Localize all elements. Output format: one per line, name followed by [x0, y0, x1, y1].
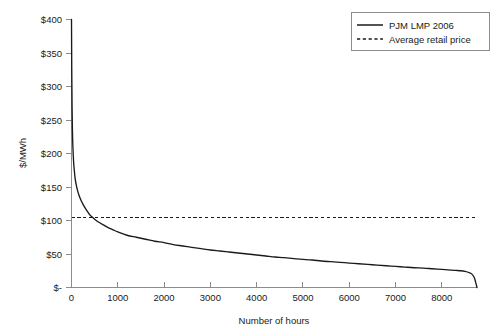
legend-box [352, 13, 490, 51]
y-tick-label-400: $400 [41, 14, 62, 25]
x-tick-label-2000: 2000 [154, 292, 175, 303]
legend-label-average-retail-price: Average retail price [389, 34, 471, 45]
x-tick-label-4000: 4000 [246, 292, 267, 303]
x-tick-label-5000: 5000 [292, 292, 313, 303]
y-tick-label-350: $350 [41, 48, 62, 59]
price-duration-chart: $- $50 $100 $150 $200 $250 $300 $350 $40… [0, 0, 498, 334]
y-tick-label-0: $- [54, 282, 62, 293]
y-tick-label-50: $50 [46, 249, 62, 260]
legend-label-pjm-lmp-2006: PJM LMP 2006 [389, 20, 454, 31]
chart-legend: PJM LMP 2006 Average retail price [352, 13, 490, 51]
x-tick-label-6000: 6000 [339, 292, 360, 303]
x-tick-label-1000: 1000 [107, 292, 128, 303]
y-tick-label-300: $300 [41, 81, 62, 92]
y-tick-label-150: $150 [41, 182, 62, 193]
y-tick-label-100: $100 [41, 215, 62, 226]
x-tick-label-3000: 3000 [200, 292, 221, 303]
x-tick-label-0: 0 [69, 292, 74, 303]
y-tick-label-250: $250 [41, 115, 62, 126]
y-axis-title: $/MWh [17, 138, 28, 168]
x-tick-label-7000: 7000 [385, 292, 406, 303]
y-tick-label-200: $200 [41, 148, 62, 159]
chart-figure: $- $50 $100 $150 $200 $250 $300 $350 $40… [0, 0, 498, 334]
x-tick-label-8000: 8000 [431, 292, 452, 303]
x-axis-tick-labels: 010002000300040005000600070008000 [69, 292, 453, 303]
x-axis-title: Number of hours [239, 315, 310, 326]
